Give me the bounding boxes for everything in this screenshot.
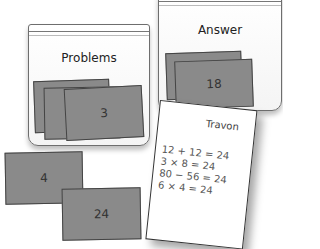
bag-seal-line xyxy=(159,5,281,6)
bag-seal xyxy=(29,31,149,32)
bag-seal xyxy=(159,1,281,2)
loose-card-24-value: 24 xyxy=(94,207,110,221)
bag-seal-line xyxy=(29,35,149,36)
answer-card-value: 18 xyxy=(206,77,222,92)
problems-card-top[interactable]: 3 xyxy=(64,85,145,141)
answer-card-top[interactable]: 18 xyxy=(174,59,254,110)
loose-card-4-value: 4 xyxy=(40,171,48,185)
loose-card-24[interactable]: 24 xyxy=(62,187,142,240)
answer-bag-label: Answer xyxy=(159,23,281,37)
problems-card-value: 3 xyxy=(100,106,108,120)
paper-student-name: Travon xyxy=(205,118,239,132)
travon-paper: Travon 12 + 12 = 24 3 × 8 = 24 80 − 56 =… xyxy=(145,100,257,249)
problems-bag-label: Problems xyxy=(29,51,149,65)
